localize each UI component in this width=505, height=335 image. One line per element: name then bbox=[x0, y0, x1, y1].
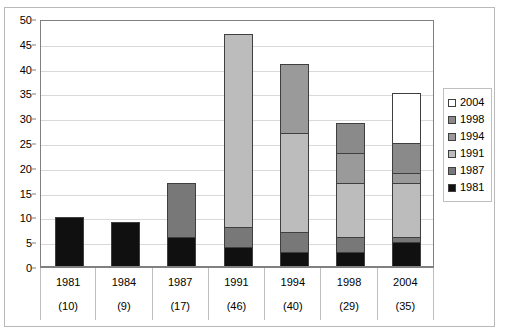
legend-label: 1981 bbox=[460, 182, 484, 193]
legend-swatch-icon bbox=[448, 167, 456, 175]
bar-segment-1991[interactable] bbox=[280, 133, 309, 232]
x-axis-column: 1998(29) bbox=[321, 268, 377, 320]
y-tick-mark bbox=[32, 168, 36, 169]
legend-swatch-icon bbox=[448, 116, 456, 124]
bar-segment-2004[interactable] bbox=[392, 93, 421, 143]
y-tick-label: 20 bbox=[20, 163, 32, 174]
x-axis-column: 2004(35) bbox=[378, 268, 434, 320]
y-tick-label: 50 bbox=[20, 15, 32, 26]
bar-segment-1998[interactable] bbox=[392, 143, 421, 173]
chart-legend: 200419981994199119871981 bbox=[443, 88, 492, 202]
plot-area bbox=[40, 20, 434, 268]
bar-segment-1987[interactable] bbox=[280, 232, 309, 252]
y-tick-mark bbox=[32, 69, 36, 70]
bar-segment-1981[interactable] bbox=[167, 237, 196, 267]
y-tick-label: 10 bbox=[20, 213, 32, 224]
legend-item-2004[interactable]: 2004 bbox=[448, 94, 488, 111]
bar-segment-1981[interactable] bbox=[336, 252, 365, 267]
x-tick-sublabel: (35) bbox=[378, 301, 433, 312]
legend-label: 1998 bbox=[460, 114, 484, 125]
x-tick-label: 2004 bbox=[378, 277, 433, 288]
x-tick-label: 1991 bbox=[209, 277, 264, 288]
bar-segment-1994[interactable] bbox=[280, 64, 309, 133]
x-axis-column: 1994(40) bbox=[265, 268, 321, 320]
y-tick-label: 40 bbox=[20, 64, 32, 75]
y-tick-mark bbox=[32, 268, 36, 269]
bar-segment-1981[interactable] bbox=[280, 252, 309, 267]
y-tick-label: 35 bbox=[20, 89, 32, 100]
bar-segment-1991[interactable] bbox=[336, 183, 365, 238]
bar-group[interactable] bbox=[55, 217, 84, 267]
legend-item-1994[interactable]: 1994 bbox=[448, 128, 488, 145]
bar-segment-1981[interactable] bbox=[224, 247, 253, 267]
y-tick-mark bbox=[32, 119, 36, 120]
y-axis: 05101520253035404550 bbox=[0, 20, 36, 268]
bar-segment-1981[interactable] bbox=[55, 217, 84, 267]
x-axis-column: 1981(10) bbox=[40, 268, 96, 320]
y-tick-mark bbox=[32, 218, 36, 219]
bar-segment-1987[interactable] bbox=[336, 237, 365, 252]
x-tick-label: 1998 bbox=[321, 277, 376, 288]
x-tick-sublabel: (46) bbox=[209, 301, 264, 312]
x-tick-sublabel: (9) bbox=[96, 301, 151, 312]
bar-group[interactable] bbox=[280, 64, 309, 267]
x-tick-sublabel: (17) bbox=[153, 301, 208, 312]
y-tick-mark bbox=[32, 144, 36, 145]
bar-segment-1994[interactable] bbox=[392, 173, 421, 183]
y-tick-label: 15 bbox=[20, 188, 32, 199]
bar-segment-1987[interactable] bbox=[224, 227, 253, 247]
bar-segment-1994[interactable] bbox=[336, 153, 365, 183]
legend-item-1987[interactable]: 1987 bbox=[448, 162, 488, 179]
bar-segment-1981[interactable] bbox=[392, 242, 421, 267]
y-tick-mark bbox=[32, 44, 36, 45]
x-tick-sublabel: (40) bbox=[265, 301, 320, 312]
x-axis-column: 1987(17) bbox=[153, 268, 209, 320]
y-tick-mark bbox=[32, 20, 36, 21]
y-tick-label: 45 bbox=[20, 39, 32, 50]
bar-segment-1981[interactable] bbox=[111, 222, 140, 267]
x-axis-baseline bbox=[41, 266, 433, 267]
bar-segment-1998[interactable] bbox=[336, 123, 365, 153]
x-tick-label: 1981 bbox=[41, 277, 95, 288]
x-tick-label: 1987 bbox=[153, 277, 208, 288]
legend-label: 1987 bbox=[460, 165, 484, 176]
legend-item-1998[interactable]: 1998 bbox=[448, 111, 488, 128]
y-tick-mark bbox=[32, 243, 36, 244]
y-tick-label: 30 bbox=[20, 114, 32, 125]
bar-group[interactable] bbox=[167, 183, 196, 267]
x-tick-label: 1994 bbox=[265, 277, 320, 288]
x-tick-sublabel: (10) bbox=[41, 301, 95, 312]
y-tick-label: 25 bbox=[20, 139, 32, 150]
legend-swatch-icon bbox=[448, 150, 456, 158]
x-tick-label: 1984 bbox=[96, 277, 151, 288]
bars-layer bbox=[41, 21, 433, 267]
legend-swatch-icon bbox=[448, 99, 456, 107]
legend-label: 2004 bbox=[460, 97, 484, 108]
bar-group[interactable] bbox=[224, 34, 253, 267]
y-tick-mark bbox=[32, 94, 36, 95]
bar-segment-1991[interactable] bbox=[392, 183, 421, 238]
x-axis-column: 1991(46) bbox=[209, 268, 265, 320]
legend-item-1991[interactable]: 1991 bbox=[448, 145, 488, 162]
bar-group[interactable] bbox=[336, 123, 365, 267]
y-tick-mark bbox=[32, 193, 36, 194]
bar-segment-1991[interactable] bbox=[224, 34, 253, 227]
chart-screenshot: 05101520253035404550 1981(10)1984(9)1987… bbox=[0, 0, 505, 335]
legend-swatch-icon bbox=[448, 133, 456, 141]
bar-group[interactable] bbox=[111, 222, 140, 267]
bar-segment-1987[interactable] bbox=[167, 183, 196, 238]
x-axis-column: 1984(9) bbox=[96, 268, 152, 320]
bar-group[interactable] bbox=[392, 93, 421, 267]
x-tick-sublabel: (29) bbox=[321, 301, 376, 312]
x-axis-label-table: 1981(10)1984(9)1987(17)1991(46)1994(40)1… bbox=[40, 268, 434, 320]
legend-swatch-icon bbox=[448, 184, 456, 192]
legend-label: 1991 bbox=[460, 148, 484, 159]
legend-item-1981[interactable]: 1981 bbox=[448, 179, 488, 196]
legend-label: 1994 bbox=[460, 131, 484, 142]
